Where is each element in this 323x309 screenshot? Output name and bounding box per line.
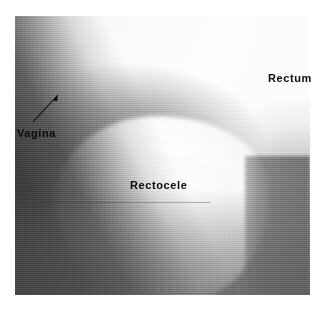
label-vagina: Vagina [17, 128, 56, 139]
figure-page: Rectum Vagina Rectocele [0, 0, 323, 309]
film-grain-texture [15, 16, 310, 295]
radiograph-image [15, 16, 310, 295]
label-rectocele: Rectocele [130, 180, 187, 191]
label-rectum: Rectum [268, 73, 312, 84]
arrow-icon [28, 90, 64, 126]
